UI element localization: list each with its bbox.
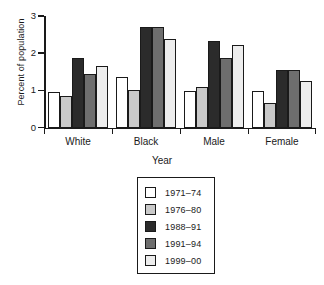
bar-female-1976-80 xyxy=(264,103,276,128)
legend-swatch-0 xyxy=(145,187,156,198)
x-tick-1 xyxy=(112,128,113,134)
legend: 1971–741976–801988–911991–941999–00 xyxy=(137,177,215,274)
legend-swatch-3 xyxy=(145,238,156,249)
bar-black-1991-94 xyxy=(152,27,164,127)
legend-item-1: 1976–80 xyxy=(138,201,214,218)
x-tick-0 xyxy=(44,128,45,134)
y-tick-label-2: 2 xyxy=(22,48,36,58)
bar-white-1988-91 xyxy=(72,58,84,128)
bar-group-female xyxy=(252,16,313,128)
y-tick-3 xyxy=(38,15,44,16)
x-axis-title: Year xyxy=(0,155,324,166)
y-tick-2 xyxy=(38,52,44,53)
y-tick-label-1: 1 xyxy=(22,85,36,95)
bar-group-black xyxy=(116,16,177,128)
bar-male-1991-94 xyxy=(220,58,232,128)
bar-female-1991-94 xyxy=(288,70,300,127)
x-tick-4 xyxy=(315,128,316,134)
bar-male-1976-80 xyxy=(196,87,208,127)
x-label-female: Female xyxy=(240,136,324,147)
bar-white-1971-74 xyxy=(48,92,60,127)
bar-white-1999-00 xyxy=(96,66,108,127)
legend-item-3: 1991–94 xyxy=(138,235,214,252)
bar-female-1971-74 xyxy=(252,91,264,127)
legend-swatch-2 xyxy=(145,221,156,232)
bar-black-1999-00 xyxy=(164,39,176,127)
legend-label-2: 1988–91 xyxy=(165,222,201,232)
bar-group-white xyxy=(48,16,109,128)
legend-label-4: 1999–00 xyxy=(165,256,201,266)
y-axis-line xyxy=(44,16,46,128)
bar-chart-figure: Percent of population 0123 WhiteBlackMal… xyxy=(0,0,324,285)
bar-black-1971-74 xyxy=(116,77,128,127)
bar-white-1991-94 xyxy=(84,74,96,128)
bar-male-1999-00 xyxy=(232,45,244,128)
plot-area: Percent of population 0123 WhiteBlackMal… xyxy=(0,0,324,175)
bar-female-1988-91 xyxy=(276,70,288,128)
x-tick-2 xyxy=(180,128,181,134)
bar-group-male xyxy=(184,16,245,128)
bar-black-1988-91 xyxy=(140,27,152,127)
bar-white-1976-80 xyxy=(60,96,72,128)
legend-swatch-4 xyxy=(145,255,156,266)
legend-label-3: 1991–94 xyxy=(165,239,201,249)
bar-male-1988-91 xyxy=(208,41,220,128)
legend-label-0: 1971–74 xyxy=(165,188,201,198)
legend-item-0: 1971–74 xyxy=(138,184,214,201)
x-tick-3 xyxy=(248,128,249,134)
bar-male-1971-74 xyxy=(184,91,196,127)
bar-female-1999-00 xyxy=(300,81,312,127)
legend-label-1: 1976–80 xyxy=(165,205,201,215)
y-tick-label-0: 0 xyxy=(22,123,36,133)
y-tick-1 xyxy=(38,90,44,91)
legend-item-4: 1999–00 xyxy=(138,252,214,269)
legend-swatch-1 xyxy=(145,204,156,215)
bar-black-1976-80 xyxy=(128,90,140,128)
y-tick-label-3: 3 xyxy=(22,11,36,21)
legend-item-2: 1988–91 xyxy=(138,218,214,235)
